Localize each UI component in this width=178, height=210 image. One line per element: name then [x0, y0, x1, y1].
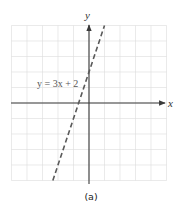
x-axis-label: x	[167, 97, 173, 109]
coordinate-graph: x y y = 3x + 2 (a)	[0, 0, 178, 210]
equation-label: y = 3x + 2	[37, 78, 78, 89]
y-axis-label: y	[84, 9, 90, 21]
figure-caption: (a)	[84, 191, 97, 202]
